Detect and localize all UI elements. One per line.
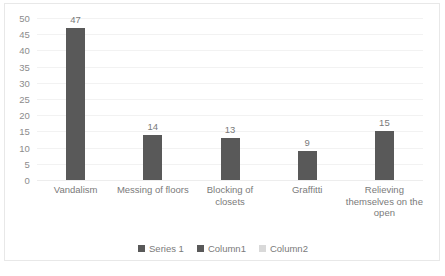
- legend-swatch-icon: [138, 245, 145, 252]
- plot-area: 471413915: [37, 18, 423, 180]
- gridline: [37, 99, 423, 100]
- bar-value-label: 14: [148, 121, 159, 132]
- y-axis-tick-label: 35: [19, 61, 30, 72]
- bar-value-label: 47: [70, 14, 81, 25]
- y-axis-tick-label: 10: [19, 142, 30, 153]
- x-axis-tick-label: Vandalism: [37, 184, 115, 196]
- y-axis: 50454035302520151050: [5, 18, 35, 180]
- gridline: [37, 34, 423, 35]
- legend-label: Series 1: [149, 243, 184, 254]
- y-axis-tick-label: 50: [19, 13, 30, 24]
- x-axis-tick-label: Messing of floors: [114, 184, 192, 196]
- legend-label: Column1: [208, 243, 246, 254]
- y-axis-tick-label: 45: [19, 29, 30, 40]
- legend-swatch-icon: [197, 245, 204, 252]
- gridline: [37, 83, 423, 84]
- legend-item[interactable]: Series 1: [138, 243, 184, 254]
- y-axis-tick-label: 0: [25, 175, 30, 186]
- legend-item[interactable]: Column1: [197, 243, 246, 254]
- bar[interactable]: [143, 135, 162, 180]
- y-axis-tick-label: 25: [19, 94, 30, 105]
- legend-label: Column2: [270, 243, 308, 254]
- gridline: [37, 115, 423, 116]
- legend-item[interactable]: Column2: [259, 243, 308, 254]
- y-axis-tick-label: 5: [25, 158, 30, 169]
- y-axis-tick-label: 15: [19, 126, 30, 137]
- bar-value-label: 15: [379, 117, 390, 128]
- legend-swatch-icon: [259, 245, 266, 252]
- gridline: [37, 50, 423, 51]
- x-axis-tick-label: Relieving themselves on the open: [345, 184, 423, 219]
- x-axis-category-labels: VandalismMessing of floorsBlocking of cl…: [37, 184, 423, 244]
- chart-legend: Series 1Column1Column2: [5, 243, 441, 254]
- gridline: [37, 18, 423, 19]
- bar-value-label: 13: [225, 124, 236, 135]
- x-axis-tick-label: Graffitti: [268, 184, 346, 196]
- gridline: [37, 67, 423, 68]
- bar[interactable]: [298, 151, 317, 180]
- x-axis-tick-label: Blocking of closets: [191, 184, 269, 207]
- gridline: [37, 180, 423, 181]
- bar[interactable]: [375, 131, 394, 180]
- y-axis-tick-label: 30: [19, 77, 30, 88]
- bar[interactable]: [221, 138, 240, 180]
- y-axis-tick-label: 20: [19, 110, 30, 121]
- chart-container: 50454035302520151050 471413915 Vandalism…: [4, 3, 440, 261]
- bar[interactable]: [66, 28, 85, 180]
- bar-value-label: 9: [305, 137, 310, 148]
- y-axis-tick-label: 40: [19, 45, 30, 56]
